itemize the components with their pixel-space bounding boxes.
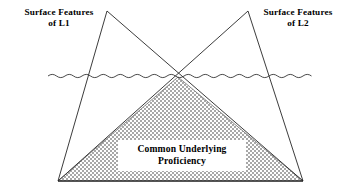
label-l1-line1: Surface Features	[17, 7, 101, 18]
label-surface-features-l2: Surface Features of L2	[255, 7, 341, 29]
label-cup-line2: Proficiency	[118, 155, 246, 167]
label-common-underlying-proficiency: Common Underlying Proficiency	[118, 140, 246, 171]
label-cup-line1: Common Underlying	[118, 143, 246, 155]
label-surface-features-l1: Surface Features of L1	[17, 7, 101, 29]
label-l1-line2: of L1	[17, 18, 101, 29]
label-l2-line1: Surface Features	[255, 7, 341, 18]
label-l2-line2: of L2	[255, 18, 341, 29]
dual-iceberg-figure: Surface Features of L1 Surface Features …	[0, 0, 358, 190]
